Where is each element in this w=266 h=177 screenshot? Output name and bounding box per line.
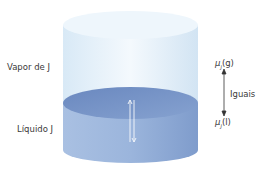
mu-liquid-label: μJ(l): [215, 117, 231, 129]
cylinder-diagram: [0, 0, 266, 177]
mu-gas-label: μJ(g): [215, 58, 234, 70]
equal-label: Iguais: [230, 89, 255, 99]
phase: (g): [222, 58, 234, 68]
equality-arrow-icon: [222, 69, 226, 116]
phase: (l): [222, 117, 231, 127]
liquid-label: Líquido J: [17, 124, 53, 134]
vapor-label: Vapor de J: [7, 62, 50, 72]
